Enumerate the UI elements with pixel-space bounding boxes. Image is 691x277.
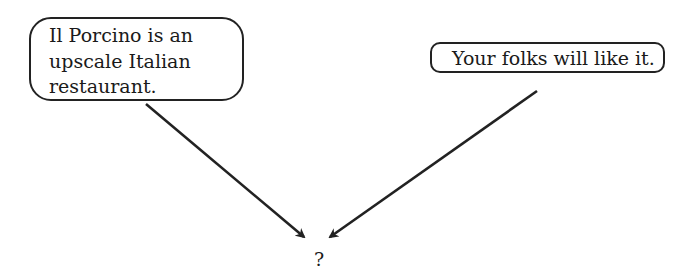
- left-statement-box: Il Porcino is an upscale Italian restaur…: [29, 17, 244, 101]
- conclusion-question-mark: ?: [314, 248, 324, 270]
- arrow-left-to-conclusion: [146, 104, 304, 237]
- left-statement-line-2: upscale Italian: [49, 49, 242, 75]
- arrow-right-to-conclusion: [330, 91, 537, 237]
- left-statement-line-3: restaurant.: [49, 74, 242, 100]
- left-statement-line-1: Il Porcino is an: [49, 23, 242, 49]
- right-statement-box: Your folks will like it.: [430, 42, 665, 73]
- right-statement-text: Your folks will like it.: [452, 47, 655, 69]
